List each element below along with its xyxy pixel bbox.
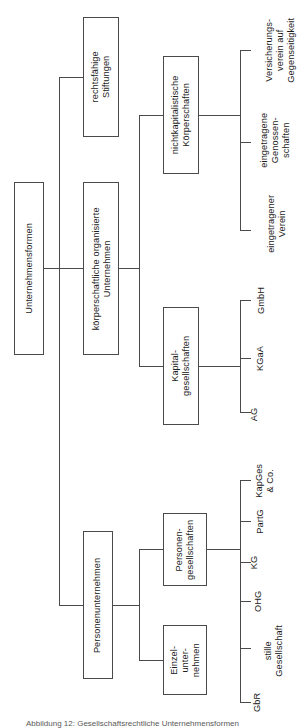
connector-trunk-koerperschaftliche: [139, 115, 140, 366]
connector-tick-kapges-co: [240, 480, 251, 481]
connector-to-personenunternehmen: [59, 605, 83, 606]
connector-personengesellschaften-stub: [207, 549, 240, 550]
connector-to-rechtsfaehige-stiftungen: [59, 77, 83, 78]
connector-koerperschaftliche-stub: [119, 268, 139, 269]
leaf-eingetragener-verein: eingetragenerVerein: [248, 184, 298, 264]
leaf-label-ohg: OHG: [253, 590, 264, 611]
node-label-kapitalgesellschaften: Kapital-gesellschaften: [170, 336, 192, 396]
connector-root-stub: [44, 268, 59, 269]
leaf-gbr: GbR: [248, 680, 288, 724]
leaf-label-eingetragener-verein: eingetragenerVerein: [266, 195, 288, 253]
node-label-nichtkapitalistische-koerperschaften: nichtkapitalistischeKörperschaften: [170, 76, 192, 155]
leaf-gmbh: GmbH: [248, 278, 288, 322]
connector-personenunternehmen-stub: [113, 605, 139, 606]
node-personengesellschaften: Personen-gesellschaften: [163, 513, 207, 586]
connector-nichtkapitalistische-stub: [199, 115, 240, 116]
leaf-stille-gesellschaft: stilleGesellschaft: [248, 622, 298, 680]
connector-tick-ohg: [240, 601, 251, 602]
connector-tick-kg: [240, 562, 251, 563]
leaf-label-versicherungsverein: Versicherungs-verein aufGegenseitigkeit: [264, 18, 297, 83]
connector-tick-eingetragener-verein: [240, 230, 251, 231]
node-label-unternehmensformen: Unternehmensformen: [24, 223, 35, 314]
leaf-ohg: OHG: [248, 580, 288, 622]
leaf-label-ag: AG: [249, 407, 260, 420]
connector-trunk-personenunternehmen: [139, 549, 140, 660]
connector-tick-versicherungsverein: [240, 50, 251, 51]
node-label-personengesellschaften: Personen-gesellschaften: [174, 519, 196, 579]
leaf-label-partg: PartG: [255, 509, 266, 534]
connector-trunk-nichtkapitalistische-leaves: [240, 50, 241, 230]
leaf-label-kgaa: KGaA: [255, 346, 266, 371]
node-label-rechtsfaehige-stiftungen: rechtsfähigeStiftungen: [90, 51, 112, 102]
leaf-label-kapges-co: KapGes& Co.: [254, 464, 276, 498]
org-chart-diagram: Unternehmensformen rechtsfähigeStiftunge…: [0, 0, 298, 728]
connector-to-einzelunternehmen: [139, 660, 163, 661]
node-rechtsfaehige-stiftungen: rechtsfähigeStiftungen: [83, 17, 119, 137]
node-label-koerperschaftliche-unternehmen: körperschaftliche organisierteUnternehme…: [90, 207, 112, 330]
node-label-personenunternehmen: Personenunternehmen: [93, 557, 104, 652]
connector-tick-ag: [240, 412, 251, 413]
connector-kapitalgesellschaften-stub: [199, 366, 240, 367]
connector-tick-eingetragene-genossenschaften: [240, 142, 251, 143]
leaf-label-eingetragene-genossenschaften: eingetrageneGenossen-schaften: [259, 113, 292, 168]
node-kapitalgesellschaften: Kapital-gesellschaften: [163, 307, 199, 425]
connector-tick-partg: [240, 521, 251, 522]
connector-tick-gbr: [240, 702, 251, 703]
connector-trunk-kapital-leaves: [240, 300, 241, 412]
leaf-versicherungsverein: Versicherungs-verein aufGegenseitigkeit: [248, 4, 298, 96]
leaf-ag: AG: [248, 394, 288, 434]
figure-caption: Abbildung 12: Gesellschaftsrechtliche Un…: [0, 719, 298, 728]
node-label-einzelunternehmen: Einzel-unter-nehmen: [169, 643, 202, 677]
connector-tick-stille-gesellschaft: [240, 648, 251, 649]
node-unternehmensformen: Unternehmensformen: [14, 182, 44, 355]
connector-tick-gmbh: [240, 300, 251, 301]
connector-to-nichtkapitalistische: [139, 115, 163, 116]
node-einzelunternehmen: Einzel-unter-nehmen: [163, 625, 207, 695]
connector-tick-kgaa: [240, 358, 251, 359]
leaf-eingetragene-genossenschaften: eingetrageneGenossen-schaften: [248, 96, 298, 184]
connector-trunk-level2: [59, 77, 60, 605]
leaf-partg: PartG: [248, 500, 288, 542]
connector-to-koerperschaftliche: [59, 268, 83, 269]
leaf-kapges-co: KapGes& Co.: [248, 458, 298, 504]
node-nichtkapitalistische-koerperschaften: nichtkapitalistischeKörperschaften: [163, 56, 199, 174]
leaf-kg: KG: [248, 542, 288, 582]
leaf-label-gbr: GbR: [252, 692, 263, 711]
connector-to-kapitalgesellschaften: [139, 366, 163, 367]
connector-to-personengesellschaften: [139, 549, 163, 550]
leaf-label-gmbh: GmbH: [256, 287, 267, 314]
leaf-label-stille-gesellschaft: stilleGesellschaft: [263, 625, 285, 677]
node-koerperschaftliche-unternehmen: körperschaftliche organisierteUnternehme…: [83, 182, 119, 355]
node-personenunternehmen: Personenunternehmen: [83, 531, 113, 679]
connector-trunk-personen-leaves: [240, 480, 241, 702]
leaf-kgaa: KGaA: [248, 336, 288, 380]
